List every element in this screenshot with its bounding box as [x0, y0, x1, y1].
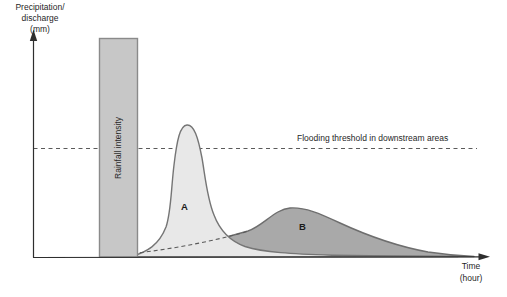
flood-threshold-label: Flooding threshold in downstream areas: [297, 133, 448, 144]
x-axis-label: Time (hour): [440, 261, 502, 284]
x-axis-arrow-icon: [479, 253, 491, 260]
y-axis-label-line3: (mm): [4, 24, 76, 35]
y-axis-label: Precipitation/ discharge (mm): [4, 2, 76, 35]
rainfall-bar-label: Rainfall intensity: [113, 117, 124, 179]
y-axis-label-line1: Precipitation/: [4, 2, 76, 13]
x-axis-label-line1: Time: [440, 261, 502, 273]
curve-b-label: B: [299, 221, 306, 232]
curve-a-label: A: [181, 201, 188, 212]
y-axis-label-line2: discharge: [4, 13, 76, 24]
hydrograph-canvas: [0, 0, 507, 297]
hydrograph-figure: Precipitation/ discharge (mm) Time (hour…: [0, 0, 507, 297]
x-axis-line: [33, 257, 480, 258]
x-axis-label-line2: (hour): [440, 273, 502, 285]
